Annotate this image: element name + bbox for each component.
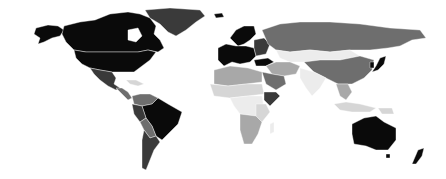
region-southern-africa[interactable] bbox=[240, 114, 262, 144]
region-central-america[interactable] bbox=[116, 88, 132, 100]
region-indonesia[interactable] bbox=[334, 102, 376, 112]
region-caribbean[interactable] bbox=[126, 80, 144, 86]
region-canada[interactable] bbox=[62, 12, 164, 52]
region-alaska[interactable] bbox=[34, 25, 64, 44]
region-russia[interactable] bbox=[262, 22, 426, 52]
region-united-states[interactable] bbox=[74, 50, 156, 72]
world-choropleth-map bbox=[0, 0, 446, 179]
region-papua-new-guinea[interactable] bbox=[378, 108, 394, 114]
region-australia[interactable] bbox=[352, 116, 396, 150]
region-new-zealand[interactable] bbox=[412, 148, 424, 164]
region-tasmania[interactable] bbox=[386, 154, 390, 158]
region-iceland[interactable] bbox=[214, 13, 224, 18]
region-somalia-ethiopia[interactable] bbox=[264, 92, 280, 106]
region-western-europe[interactable] bbox=[218, 44, 256, 66]
region-madagascar[interactable] bbox=[270, 122, 274, 134]
region-southeast-asia[interactable] bbox=[336, 84, 352, 100]
region-korea[interactable] bbox=[370, 62, 374, 68]
region-scandinavia[interactable] bbox=[230, 26, 256, 46]
region-north-africa[interactable] bbox=[214, 66, 262, 86]
